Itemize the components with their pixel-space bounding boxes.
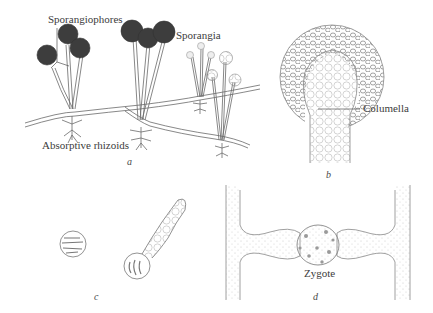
label-absorptive-rhizoids: Absorptive rhizoids [42, 140, 129, 151]
label-sporangiophores: Sporangiophores [48, 14, 123, 25]
panel-letter-c: c [94, 292, 98, 302]
label-zygote: Zygote [304, 268, 335, 279]
sporangia-dark [37, 20, 175, 65]
panel-letter-a: a [127, 157, 132, 167]
label-columella: Columella [363, 103, 409, 114]
panel-c-spores [60, 199, 186, 279]
panel-d-conjugation [226, 185, 410, 300]
panel-letter-b: b [326, 170, 331, 180]
label-sporangia: Sporangia [176, 30, 221, 41]
bread-mold-diagram [0, 0, 433, 313]
panel-letter-d: d [313, 292, 318, 302]
panel-b-sporangium-section [280, 25, 384, 163]
